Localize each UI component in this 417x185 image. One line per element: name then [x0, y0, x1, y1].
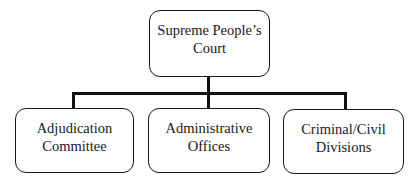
node-label-line: Administrative — [166, 119, 253, 137]
node-label-line: Supreme People’s — [157, 21, 261, 39]
node-label-line: Offices — [188, 137, 230, 155]
connector-right-branch — [344, 92, 347, 110]
node-label-line: Committee — [42, 137, 106, 155]
connector-left-branch — [72, 92, 75, 109]
node-supreme-peoples-court: Supreme People’s Court — [149, 10, 270, 77]
node-administrative-offices: Administrative Offices — [148, 108, 270, 173]
org-chart: Supreme People’s Court Adjudication Comm… — [0, 0, 417, 185]
node-criminal-civil-divisions: Criminal/Civil Divisions — [283, 109, 404, 174]
node-label-line: Court — [193, 39, 226, 57]
node-label-line: Adjudication — [37, 119, 113, 137]
node-label-line: Criminal/Civil — [301, 120, 386, 138]
node-adjudication-committee: Adjudication Committee — [15, 108, 134, 173]
node-label-line: Divisions — [316, 138, 372, 156]
connector-horizontal-bar — [72, 92, 347, 95]
